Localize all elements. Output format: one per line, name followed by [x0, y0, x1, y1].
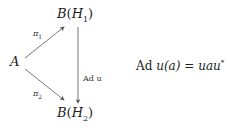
pi2-sub: 2 [38, 93, 42, 100]
equation-op: Ad [136, 59, 152, 73]
node-A-label: A [10, 54, 19, 69]
equation-star: * [221, 59, 225, 67]
equation: Ad u(a) = uau* [136, 59, 224, 73]
arrow-pi1 [25, 27, 64, 58]
node-B-H2-arg: H [72, 105, 83, 120]
script-B-symbol: B [57, 105, 67, 120]
node-B-H1-arg: H [72, 6, 83, 21]
script-B-symbol: B [57, 6, 67, 21]
node-A: A [10, 54, 19, 69]
node-B-H2: B(H2) [57, 105, 93, 123]
node-B-H1: B(H1) [57, 6, 93, 24]
label-pi1: π1 [33, 29, 42, 40]
pi1-sub: 1 [38, 33, 42, 40]
equation-rhs: uau [198, 59, 221, 73]
arrow-pi2 [25, 69, 64, 100]
label-pi2: π2 [33, 89, 42, 100]
label-adu: Ad u [83, 74, 102, 83]
equation-equals: = [184, 59, 194, 73]
diagram-canvas: A B(H1) B(H2) π1 π2 Ad u Ad u(a) = uau* [0, 0, 230, 131]
equation-lhs: u(a) [156, 59, 180, 73]
